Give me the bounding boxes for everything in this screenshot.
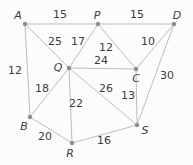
edge-A-B — [25, 24, 30, 117]
edge-weight-P-Q: 17 — [71, 35, 85, 48]
vertex-label-A: A — [13, 9, 22, 22]
edge-weight-Q-S: 26 — [99, 82, 113, 95]
vertex-A — [23, 22, 27, 26]
vertex-Q — [67, 66, 71, 70]
graph-canvas: 151512251712102430182613222016APDQCBRS — [0, 0, 193, 165]
edge-weight-A-Q: 25 — [48, 35, 62, 48]
edge-weight-Q-R: 22 — [69, 97, 83, 110]
vertex-label-P: P — [94, 9, 101, 22]
edge-weight-Q-B: 18 — [35, 82, 49, 95]
edge-weight-P-D: 15 — [130, 8, 144, 21]
graph-diagram: 151512251712102430182613222016APDQCBRS — [0, 0, 193, 165]
vertex-D — [172, 22, 176, 26]
edge-A-Q — [25, 24, 69, 68]
vertex-S — [135, 123, 139, 127]
edge-weight-D-S: 30 — [160, 69, 174, 82]
vertex-P — [96, 22, 100, 26]
vertex-label-C: C — [132, 72, 140, 85]
vertex-label-R: R — [66, 147, 74, 160]
edge-weight-A-B: 12 — [8, 64, 22, 77]
vertex-label-S: S — [142, 124, 149, 137]
edge-weight-R-S: 16 — [97, 134, 111, 147]
vertex-B — [28, 115, 32, 119]
vertex-label-D: D — [173, 9, 181, 22]
edge-weight-Q-C: 24 — [94, 54, 108, 67]
edge-weight-P-C: 12 — [99, 41, 113, 54]
vertex-label-Q: Q — [54, 61, 63, 74]
edge-weight-D-C: 10 — [141, 35, 155, 48]
edge-Q-C — [69, 68, 136, 69]
edge-weight-B-R: 20 — [38, 130, 52, 143]
vertex-C — [134, 67, 138, 71]
edge-weight-C-S: 13 — [121, 89, 135, 102]
vertex-R — [70, 141, 74, 145]
edge-weight-A-P: 15 — [53, 8, 67, 21]
vertex-label-B: B — [20, 120, 28, 133]
